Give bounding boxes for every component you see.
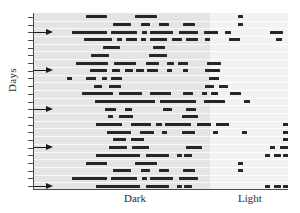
activity-bar <box>159 23 169 26</box>
day-gridline <box>34 36 288 37</box>
day-gridline <box>34 182 288 183</box>
row-marker-arrow-icon <box>33 29 55 36</box>
row-marker-arrow-icon <box>33 67 55 74</box>
activity-bar <box>150 38 167 41</box>
activity-bar <box>190 115 195 118</box>
activity-bar <box>126 38 137 41</box>
activity-bar <box>136 69 144 72</box>
activity-bar <box>283 131 288 134</box>
actogram-figure: Days Dark Light <box>0 0 300 213</box>
activity-bar <box>114 62 135 65</box>
activity-bar <box>146 154 169 157</box>
day-gridline <box>34 67 288 68</box>
y-axis-tick <box>28 63 33 64</box>
activity-bar <box>142 177 147 180</box>
activity-bar <box>72 31 106 34</box>
activity-bar <box>238 23 243 26</box>
activity-bar <box>146 185 169 188</box>
day-gridline <box>34 75 288 76</box>
day-gridline <box>34 28 288 29</box>
activity-bar <box>182 131 195 134</box>
activity-bar <box>125 108 133 111</box>
activity-bar <box>117 38 123 41</box>
activity-bar <box>119 115 132 118</box>
y-axis-tick <box>28 178 33 179</box>
activity-bar <box>140 131 154 134</box>
activity-bar <box>172 38 182 41</box>
day-gridline <box>34 128 288 129</box>
activity-bar <box>179 177 198 180</box>
activity-bar <box>150 92 171 95</box>
row-marker-arrow-icon <box>33 144 55 151</box>
activity-bar <box>225 31 231 34</box>
activity-bar <box>135 162 157 165</box>
activity-bar <box>113 23 132 26</box>
activity-bar <box>165 123 191 126</box>
activity-bar <box>103 46 120 49</box>
activity-bar <box>160 100 196 103</box>
activity-bar <box>119 92 142 95</box>
activity-bar <box>131 123 151 126</box>
y-axis-tick <box>28 94 33 95</box>
activity-bar <box>186 146 203 149</box>
activity-bar <box>184 154 191 157</box>
activity-bar <box>183 23 195 26</box>
y-axis-tick <box>28 155 33 156</box>
activity-bar <box>108 115 113 118</box>
activity-bar <box>96 154 139 157</box>
row-marker-arrow-icon <box>33 106 55 113</box>
activity-bar <box>283 185 288 188</box>
y-axis-tick <box>28 163 33 164</box>
activity-bar <box>109 85 121 88</box>
day-gridline <box>34 82 288 83</box>
activity-bar <box>163 108 173 111</box>
y-axis-tick <box>28 132 33 133</box>
activity-bar <box>162 131 167 134</box>
day-gridline <box>34 44 288 45</box>
activity-bar <box>86 77 96 80</box>
activity-bar <box>244 100 250 103</box>
y-axis-tick <box>28 102 33 103</box>
day-gridline <box>34 167 288 168</box>
y-axis-tick <box>28 48 33 49</box>
activity-bar <box>186 38 199 41</box>
activity-bar <box>204 31 218 34</box>
day-gridline <box>34 152 288 153</box>
row-marker-arrow-icon <box>33 183 55 190</box>
activity-bar <box>177 185 182 188</box>
activity-bar <box>265 185 270 188</box>
activity-bar <box>219 85 228 88</box>
y-axis-tick <box>28 125 33 126</box>
y-axis-tick <box>28 17 33 18</box>
activity-bar <box>159 169 169 172</box>
day-gridline <box>34 105 288 106</box>
activity-bar <box>216 123 228 126</box>
activity-bar <box>238 162 243 165</box>
activity-bar <box>167 69 172 72</box>
activity-bar <box>150 31 173 34</box>
y-axis-tick <box>28 25 33 26</box>
activity-bar <box>270 146 275 149</box>
activity-bar <box>197 123 211 126</box>
activity-bar <box>211 92 218 95</box>
activity-bar <box>183 169 195 172</box>
activity-bar <box>178 62 188 65</box>
activity-bar <box>109 146 127 149</box>
activity-bar <box>67 77 72 80</box>
activity-bar <box>149 54 168 57</box>
activity-bar <box>135 15 157 18</box>
activity-bar <box>84 38 112 41</box>
x-label-dark: Dark <box>80 192 190 204</box>
day-gridline <box>34 90 288 91</box>
activity-bar <box>205 69 220 72</box>
activity-bar <box>141 169 150 172</box>
activity-bar <box>283 123 288 126</box>
activity-bar <box>146 62 159 65</box>
activity-bar <box>186 108 196 111</box>
activity-bar <box>177 154 182 157</box>
activity-bar <box>111 77 122 80</box>
day-gridline <box>34 121 288 122</box>
activity-bar <box>82 92 113 95</box>
x-label-light: Light <box>200 192 300 204</box>
activity-bar <box>238 169 243 172</box>
